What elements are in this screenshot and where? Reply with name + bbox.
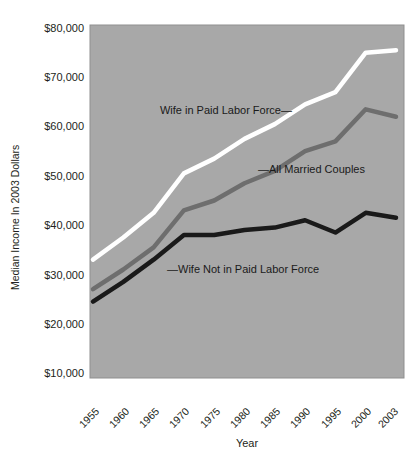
x-tick-label: 2003	[375, 405, 400, 430]
x-tick-label: 1970	[166, 405, 191, 430]
y-tick-label: $50,000	[44, 170, 84, 182]
annotation-all-married-couples: —All Married Couples	[258, 163, 365, 175]
x-axis-title: Year	[236, 437, 259, 449]
x-axis-ticks: 1955 1960 1965 1970 1975 1980 1985 1990 …	[76, 405, 400, 430]
x-tick-label: 1955	[76, 405, 101, 430]
y-tick-label: $70,000	[44, 71, 84, 83]
y-tick-label: $40,000	[44, 219, 84, 231]
plot-area-background	[90, 25, 404, 378]
y-tick-label: $30,000	[44, 269, 84, 281]
annotation-wife-in-paid-labor-force: Wife in Paid Labor Force—	[160, 104, 292, 116]
x-tick-label: 1980	[227, 405, 252, 430]
x-tick-label: 1985	[257, 405, 282, 430]
income-line-chart: $80,000 $70,000 $60,000 $50,000 $40,000 …	[0, 0, 420, 456]
x-tick-label: 1965	[136, 405, 161, 430]
x-tick-label: 1990	[287, 405, 312, 430]
y-tick-label: $10,000	[44, 367, 84, 379]
x-tick-label: 2000	[348, 405, 373, 430]
y-axis-ticks: $80,000 $70,000 $60,000 $50,000 $40,000 …	[44, 22, 84, 379]
y-tick-label: $20,000	[44, 318, 84, 330]
y-axis-title: Median Income In 2003 Dollars	[9, 145, 21, 290]
x-tick-label: 1995	[318, 405, 343, 430]
x-tick-label: 1975	[197, 405, 222, 430]
y-tick-label: $60,000	[44, 120, 84, 132]
y-tick-label: $80,000	[44, 22, 84, 34]
annotation-wife-not-in-paid-labor-force: —Wife Not in Paid Labor Force	[167, 263, 319, 275]
chart-canvas: $80,000 $70,000 $60,000 $50,000 $40,000 …	[0, 0, 420, 456]
x-tick-label: 1960	[106, 405, 131, 430]
